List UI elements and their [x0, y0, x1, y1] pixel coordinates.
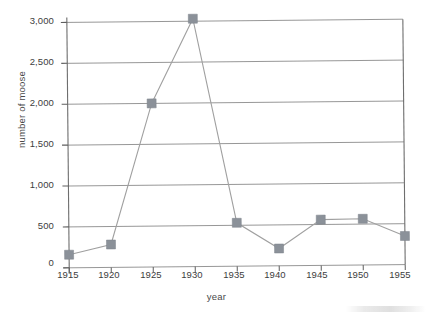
x-axis-line: [63, 265, 405, 268]
gridline-3000: [67, 19, 403, 22]
data-point-1920: [106, 240, 115, 249]
scan-artifact: [346, 306, 426, 312]
gridlines: [67, 19, 405, 227]
gridline-2500: [67, 60, 403, 63]
gridline-1500: [68, 142, 404, 145]
gridline-1000: [68, 183, 404, 186]
moose-population-line-chart: number of moose year 0 500 1,000 1,500 2…: [0, 0, 433, 320]
y-axis-ticks: [61, 22, 69, 267]
data-point-1950: [358, 214, 367, 223]
data-point-1945: [316, 215, 325, 224]
data-point-1930: [188, 14, 197, 23]
data-point-1955: [400, 231, 409, 240]
gridline-2000: [68, 101, 404, 104]
data-point-1935: [232, 218, 241, 227]
data-point-1925: [147, 99, 156, 108]
plot-area: [0, 0, 433, 320]
data-point-1915: [65, 250, 74, 259]
data-point-1940: [275, 244, 284, 253]
data-point-markers: [62, 12, 409, 259]
